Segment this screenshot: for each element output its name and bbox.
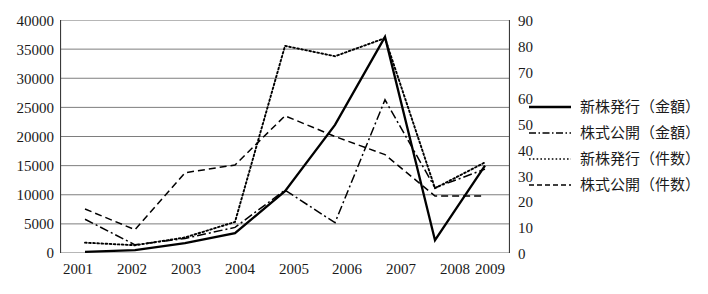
legend-item-3: 株式公開（件数）: [528, 172, 708, 198]
x-axis-tick-2005: 2005: [264, 262, 324, 277]
series-line-0: [85, 37, 485, 252]
y-axis-right-tick: 0: [518, 247, 526, 262]
y-axis-left-tick: 15000: [17, 159, 55, 174]
y-axis-left-tick: 0: [47, 246, 55, 261]
series-line-2: [85, 38, 485, 245]
legend-swatch-dotted: [528, 153, 572, 165]
x-axis-tick-2004: 2004: [210, 262, 270, 277]
x-axis-tick-2007: 2007: [371, 262, 431, 277]
x-axis-tick-2009: 2009: [460, 262, 520, 277]
legend-item-0: 新株発行（金額）: [528, 94, 708, 120]
x-axis-tick-2002: 2002: [102, 262, 162, 277]
x-axis-tick-2003: 2003: [156, 262, 216, 277]
y-axis-left-tick: 40000: [17, 14, 55, 29]
legend-label-1: 株式公開（金額）: [580, 126, 700, 141]
y-axis-right-tick: 80: [518, 40, 533, 55]
y-axis-left-tick: 30000: [17, 72, 55, 87]
legend-label-2: 新株発行（件数）: [580, 152, 700, 167]
y-axis-right-tick: 10: [518, 221, 533, 236]
y-axis-right-tick: 70: [518, 66, 533, 81]
plot-area: [60, 20, 510, 253]
legend-swatch-dashed: [528, 179, 572, 191]
y-axis-left-tick: 35000: [17, 43, 55, 58]
x-axis-tick-2001: 2001: [48, 262, 108, 277]
y-axis-left-tick: 20000: [17, 130, 55, 145]
legend-swatch-dashdot: [528, 127, 572, 139]
y-axis-left-tick: 10000: [17, 188, 55, 203]
y-axis-left-tick: 5000: [24, 217, 54, 232]
x-axis-tick-2006: 2006: [317, 262, 377, 277]
legend-label-3: 株式公開（件数）: [580, 178, 700, 193]
legend-label-0: 新株発行（金額）: [580, 100, 700, 115]
legend: 新株発行（金額） 株式公開（金額） 新株発行（件数） 株式公開（件数）: [528, 94, 708, 198]
legend-item-2: 新株発行（件数）: [528, 146, 708, 172]
gridlines: [60, 20, 510, 253]
data-series-layer: [85, 37, 485, 252]
series-line-1: [85, 100, 485, 245]
y-axis-right-tick: 90: [518, 14, 533, 29]
y-axis-left-tick: 25000: [17, 101, 55, 116]
plot-svg: [60, 20, 510, 253]
series-line-3: [85, 116, 485, 230]
legend-item-1: 株式公開（金額）: [528, 120, 708, 146]
line-chart: 40000 35000 30000 25000 20000 15000 1000…: [0, 0, 708, 294]
legend-swatch-solid: [528, 101, 572, 113]
